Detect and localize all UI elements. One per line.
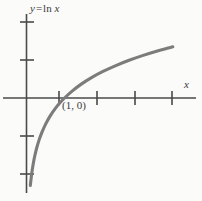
- x-axis-label: x: [184, 79, 189, 90]
- point-label-one-zero: (1, 0): [62, 100, 86, 111]
- curve-label-x: x: [54, 2, 59, 14]
- figure-ln-x: y=ln x x (1, 0): [0, 0, 202, 201]
- curve-equation-label: y=ln x: [30, 3, 59, 14]
- ln-curve: [30, 47, 173, 186]
- curve-label-ln: ln: [43, 2, 52, 14]
- curve-label-equals: =: [35, 2, 43, 14]
- plot-canvas: [0, 0, 202, 201]
